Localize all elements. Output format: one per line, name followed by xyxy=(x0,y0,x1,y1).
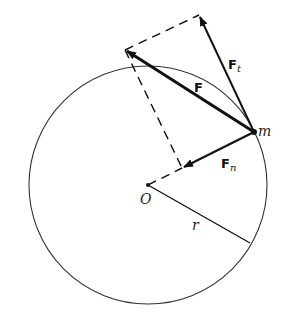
radius-line xyxy=(148,185,250,243)
dashed-line-top xyxy=(125,15,199,50)
dashed-line-center xyxy=(148,168,182,185)
force-diagram: F Ft Fn m O r xyxy=(0,0,285,316)
mass-point xyxy=(251,129,257,135)
label-F: F xyxy=(194,80,203,95)
label-Fn: Fn xyxy=(221,156,236,173)
diagram-svg: F Ft Fn m O r xyxy=(0,0,285,316)
vector-Fn xyxy=(184,132,254,167)
label-r: r xyxy=(192,217,200,233)
label-m: m xyxy=(258,123,271,139)
label-Ft: Ft xyxy=(228,57,242,74)
label-O: O xyxy=(140,191,152,207)
center-point xyxy=(146,183,150,187)
